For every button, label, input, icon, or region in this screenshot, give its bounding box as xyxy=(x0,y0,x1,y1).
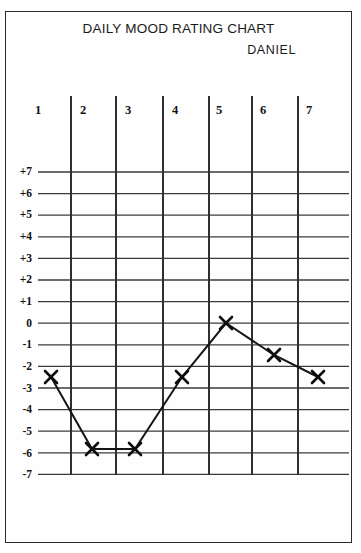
vertical-gridlines xyxy=(71,96,298,474)
data-point-day-4 xyxy=(176,371,188,383)
mood-data-markers xyxy=(45,317,324,455)
data-point-day-7 xyxy=(312,371,324,383)
mood-series-line xyxy=(51,323,318,449)
horizontal-gridlines xyxy=(38,172,349,474)
chart-grid-and-series xyxy=(6,12,353,544)
mood-chart-sheet: DAILY MOOD RATING CHART DANIEL 1 2 3 4 5… xyxy=(5,11,352,543)
data-point-day-1 xyxy=(45,371,57,383)
data-point-day-6 xyxy=(268,349,280,361)
chart-plot-area: 1 2 3 4 5 6 7 +7 +6 +5 +4 +3 +2 +1 0 -1 … xyxy=(6,12,353,544)
